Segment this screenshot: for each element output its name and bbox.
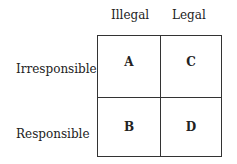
column-label-legal: Legal bbox=[172, 8, 206, 22]
column-label-illegal: Illegal bbox=[111, 8, 149, 22]
cell-a: A bbox=[98, 55, 160, 69]
vertical-divider bbox=[160, 36, 161, 156]
cell-b: B bbox=[98, 120, 160, 134]
cell-c: C bbox=[160, 55, 222, 69]
row-label-responsible: Responsible bbox=[16, 127, 90, 141]
quadrant-grid: A C B D bbox=[97, 35, 222, 157]
horizontal-divider bbox=[98, 97, 221, 98]
cell-d: D bbox=[160, 120, 222, 134]
row-label-irresponsible: Irresponsible bbox=[16, 62, 97, 76]
